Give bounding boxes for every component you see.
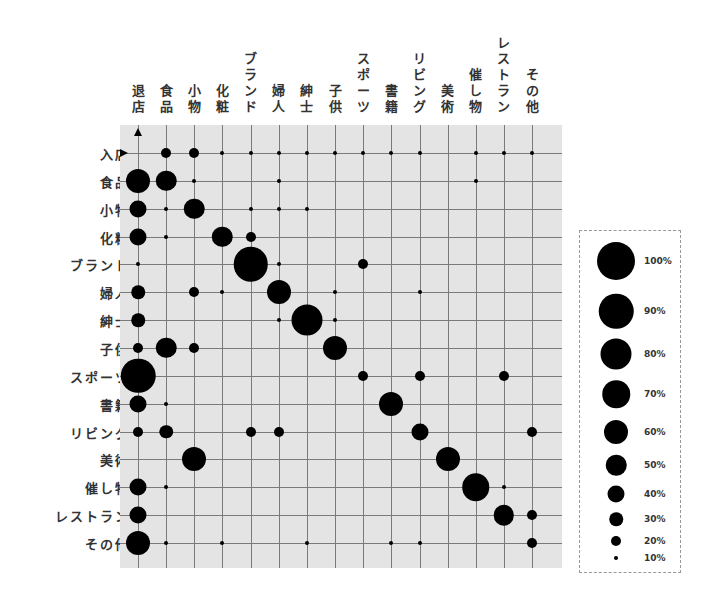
data-bubble (379, 392, 403, 416)
data-bubble (233, 247, 268, 282)
entry-arrow-right-icon (120, 149, 128, 157)
column-label: その他 (522, 67, 542, 115)
legend-bubble-icon (606, 455, 627, 476)
data-bubble (389, 541, 393, 545)
data-bubble (159, 425, 173, 439)
data-bubble (499, 371, 509, 381)
data-bubble (361, 151, 365, 155)
legend-bubble-icon (614, 556, 618, 560)
data-bubble (131, 286, 145, 300)
column-label: 紳士 (297, 83, 317, 115)
data-bubble (126, 169, 150, 193)
grid-line-horizontal (120, 292, 562, 293)
data-bubble (220, 290, 224, 294)
data-bubble (358, 371, 368, 381)
data-bubble (291, 305, 322, 336)
legend-label: 90% (644, 306, 666, 316)
plot-grid (120, 125, 562, 568)
data-bubble (277, 151, 281, 155)
grid-line-vertical (251, 125, 252, 568)
data-bubble (121, 359, 156, 394)
data-bubble (182, 447, 206, 471)
data-bubble (527, 427, 537, 437)
data-bubble (305, 151, 309, 155)
column-label: 食品 (156, 83, 176, 115)
column-label: 美術 (438, 83, 458, 115)
data-bubble (418, 151, 422, 155)
data-bubble (249, 207, 253, 211)
data-bubble (156, 338, 177, 359)
data-bubble (333, 290, 337, 294)
data-bubble (277, 179, 281, 183)
data-bubble (502, 485, 506, 489)
data-bubble (527, 538, 537, 548)
data-bubble (333, 151, 337, 155)
data-bubble (474, 179, 478, 183)
exit-arrow-up-icon (134, 128, 142, 136)
grid-line-vertical (476, 125, 477, 568)
grid-line-horizontal (120, 237, 562, 238)
legend-label: 50% (644, 460, 666, 470)
data-bubble (156, 171, 177, 192)
legend-label: 40% (644, 489, 666, 499)
data-bubble (130, 395, 147, 412)
grid-line-horizontal (120, 320, 562, 321)
grid-line-vertical (279, 125, 280, 568)
data-bubble (415, 371, 425, 381)
legend-bubble-icon (611, 536, 621, 546)
legend-bubble-icon (601, 339, 632, 370)
column-label: 書籍 (381, 83, 401, 115)
column-label: 化粧 (212, 83, 232, 115)
data-bubble (164, 541, 168, 545)
data-bubble (277, 262, 281, 266)
data-bubble (530, 151, 534, 155)
data-bubble (164, 207, 168, 211)
grid-line-vertical (391, 125, 392, 568)
data-bubble (131, 313, 145, 327)
legend-label: 70% (644, 389, 666, 399)
grid-line-horizontal (120, 432, 562, 433)
data-bubble (133, 427, 143, 437)
grid-line-horizontal (120, 376, 562, 377)
data-bubble (474, 151, 478, 155)
column-label: 退店 (128, 83, 148, 115)
legend-label: 20% (644, 536, 666, 546)
data-bubble (323, 336, 347, 360)
data-bubble (249, 151, 253, 155)
legend-bubble-icon (602, 380, 630, 408)
grid-line-vertical (222, 125, 223, 568)
grid-line-horizontal (120, 487, 562, 488)
legend-bubble-icon (604, 420, 628, 444)
data-bubble (133, 343, 143, 353)
row-label: レストラン (55, 506, 130, 525)
data-bubble (164, 235, 168, 239)
legend-bubble-icon (599, 294, 634, 329)
data-bubble (136, 262, 140, 266)
data-bubble (189, 343, 199, 353)
data-bubble (189, 148, 199, 158)
data-bubble (130, 507, 147, 524)
data-bubble (220, 541, 224, 545)
legend-label: 10% (644, 553, 666, 563)
column-label: リビング (410, 51, 430, 115)
data-bubble (126, 531, 150, 555)
legend-bubble-icon (608, 486, 625, 503)
grid-line-horizontal (120, 543, 562, 544)
data-bubble (277, 207, 281, 211)
grid-line-vertical (532, 125, 533, 568)
size-legend: 100%90%80%70%60%50%40%30%20%10% (579, 230, 681, 573)
data-bubble (164, 485, 168, 489)
data-bubble (212, 226, 233, 247)
data-bubble (189, 287, 199, 297)
column-label: 催し物 (466, 67, 486, 115)
grid-line-horizontal (120, 181, 562, 182)
data-bubble (277, 318, 281, 322)
data-bubble (502, 151, 506, 155)
legend-label: 100% (644, 256, 672, 266)
column-label: ブランド (241, 51, 261, 115)
data-bubble (246, 427, 256, 437)
grid-line-horizontal (120, 153, 562, 154)
legend-bubble-icon (609, 512, 623, 526)
column-label: 婦人 (269, 83, 289, 115)
data-bubble (527, 510, 537, 520)
